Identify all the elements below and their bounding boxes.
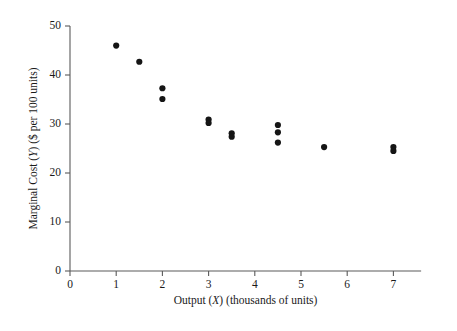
data-point <box>159 96 165 102</box>
data-point <box>275 122 281 128</box>
x-axis-ticks: 01234567 <box>67 271 396 290</box>
x-tick-label-5: 5 <box>298 278 304 290</box>
x-tick-label-0: 0 <box>67 278 73 290</box>
y-tick-label-30: 30 <box>50 117 62 129</box>
plot-area: 01020304050 01234567 Output (X) (thousan… <box>0 0 457 331</box>
x-tick-label-7: 7 <box>391 278 397 290</box>
data-point <box>321 144 327 150</box>
x-tick-label-6: 6 <box>344 278 350 290</box>
x-tick-label-4: 4 <box>252 278 258 290</box>
x-tick-label-2: 2 <box>160 278 166 290</box>
y-tick-label-0: 0 <box>55 264 61 276</box>
data-point <box>113 43 119 49</box>
data-point <box>206 120 212 126</box>
scatter-chart: 01020304050 01234567 Output (X) (thousan… <box>0 0 457 331</box>
y-tick-label-40: 40 <box>50 68 62 80</box>
data-points-group <box>113 43 396 155</box>
y-tick-label-50: 50 <box>50 19 62 31</box>
x-tick-label-1: 1 <box>113 278 119 290</box>
data-point <box>390 148 396 154</box>
data-point <box>275 140 281 146</box>
data-point <box>136 59 142 65</box>
y-tick-label-20: 20 <box>50 166 62 178</box>
x-tick-label-3: 3 <box>206 278 212 290</box>
y-tick-label-10: 10 <box>50 215 62 227</box>
y-axis-ticks: 01020304050 <box>50 19 71 276</box>
data-point <box>275 129 281 135</box>
x-axis-title: Output (X) (thousands of units) <box>174 294 318 307</box>
y-axis-title: Marginal Cost (Y) ($ per 100 units) <box>27 67 40 229</box>
data-point <box>229 134 235 140</box>
data-point <box>159 85 165 91</box>
